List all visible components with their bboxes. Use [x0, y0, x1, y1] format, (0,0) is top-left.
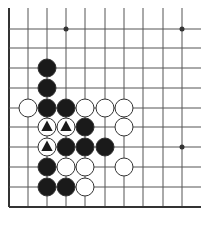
white-stone: [115, 99, 133, 117]
black-stone: [57, 178, 75, 196]
black-stone: [38, 79, 56, 97]
black-stone: [57, 99, 75, 117]
white-stone: [76, 158, 94, 176]
go-board: [0, 0, 211, 226]
white-stone: [96, 99, 114, 117]
star-point: [180, 27, 185, 32]
star-point: [64, 27, 69, 32]
white-stone: [76, 99, 94, 117]
black-stone: [57, 138, 75, 156]
black-stone: [38, 158, 56, 176]
black-stone: [96, 138, 114, 156]
white-stone: [57, 158, 75, 176]
white-stone: [19, 99, 37, 117]
black-stone: [38, 99, 56, 117]
black-stone: [76, 118, 94, 136]
black-stone: [76, 138, 94, 156]
white-stone: [115, 118, 133, 136]
white-stone: [76, 178, 94, 196]
star-point: [180, 145, 185, 150]
black-stone: [38, 59, 56, 77]
white-stone: [115, 158, 133, 176]
black-stone: [38, 178, 56, 196]
